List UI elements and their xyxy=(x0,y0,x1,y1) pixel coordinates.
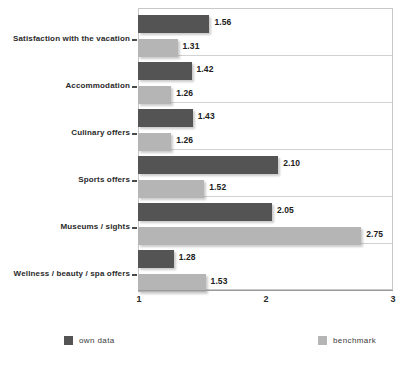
category-label-wellness-beauty-spa-offers: Wellness / beauty / spa offers xyxy=(0,269,130,278)
bar-value-label: 1.43 xyxy=(198,111,215,121)
legend-swatch-icon-own-data xyxy=(64,336,73,345)
category-label-satisfaction-with-the-vacation: Satisfaction with the vacation xyxy=(0,34,130,43)
bar-own-data xyxy=(138,15,209,33)
bar-value-label: 1.31 xyxy=(183,41,200,51)
category-label-museums-sights: Museums / sights xyxy=(0,222,130,231)
bar-value-label: 2.75 xyxy=(366,229,383,239)
bar-value-label: 1.26 xyxy=(176,88,193,98)
x-axis-line xyxy=(138,290,393,291)
bar-value-label: 1.42 xyxy=(197,64,214,74)
gridline xyxy=(139,149,392,150)
x-tick-label-2: 2 xyxy=(263,294,268,304)
axis-tick-icon xyxy=(132,86,137,88)
legend: own data benchmark xyxy=(0,336,416,352)
axis-tick-icon xyxy=(132,180,137,182)
legend-item-benchmark[interactable]: benchmark xyxy=(318,336,376,345)
bar-benchmark xyxy=(138,133,171,151)
bar-value-label: 1.53 xyxy=(211,276,228,286)
bar-value-label: 2.05 xyxy=(277,205,294,215)
x-tick-label-3: 3 xyxy=(390,294,395,304)
axis-tick-icon xyxy=(132,274,137,276)
legend-item-own-data[interactable]: own data xyxy=(64,336,115,345)
bar-benchmark xyxy=(138,180,204,198)
category-label-accommodation: Accommodation xyxy=(0,81,130,90)
bar-value-label: 1.52 xyxy=(209,182,226,192)
bar-value-label: 1.56 xyxy=(214,17,231,27)
bar-value-label: 2.10 xyxy=(283,158,300,168)
axis-tick-icon xyxy=(132,227,137,229)
bar-benchmark xyxy=(138,39,178,57)
gridline xyxy=(139,102,392,103)
bar-own-data xyxy=(138,250,174,268)
x-tick-label-1: 1 xyxy=(136,294,141,304)
bar-own-data xyxy=(138,203,272,221)
legend-label-own-data: own data xyxy=(79,336,115,345)
category-label-culinary-offers: Culinary offers xyxy=(0,128,130,137)
bar-own-data xyxy=(138,62,192,80)
bar-chart: Satisfaction with the vacation Accommoda… xyxy=(0,0,416,367)
legend-label-benchmark: benchmark xyxy=(333,336,376,345)
bar-benchmark xyxy=(138,86,171,104)
category-label-sports-offers: Sports offers xyxy=(0,175,130,184)
axis-tick-icon xyxy=(132,39,137,41)
bar-own-data xyxy=(138,156,278,174)
bar-own-data xyxy=(138,109,193,127)
bar-benchmark xyxy=(138,227,361,245)
legend-swatch-icon-benchmark xyxy=(318,336,327,345)
axis-tick-icon xyxy=(132,133,137,135)
bar-value-label: 1.28 xyxy=(179,252,196,262)
bar-value-label: 1.26 xyxy=(176,135,193,145)
